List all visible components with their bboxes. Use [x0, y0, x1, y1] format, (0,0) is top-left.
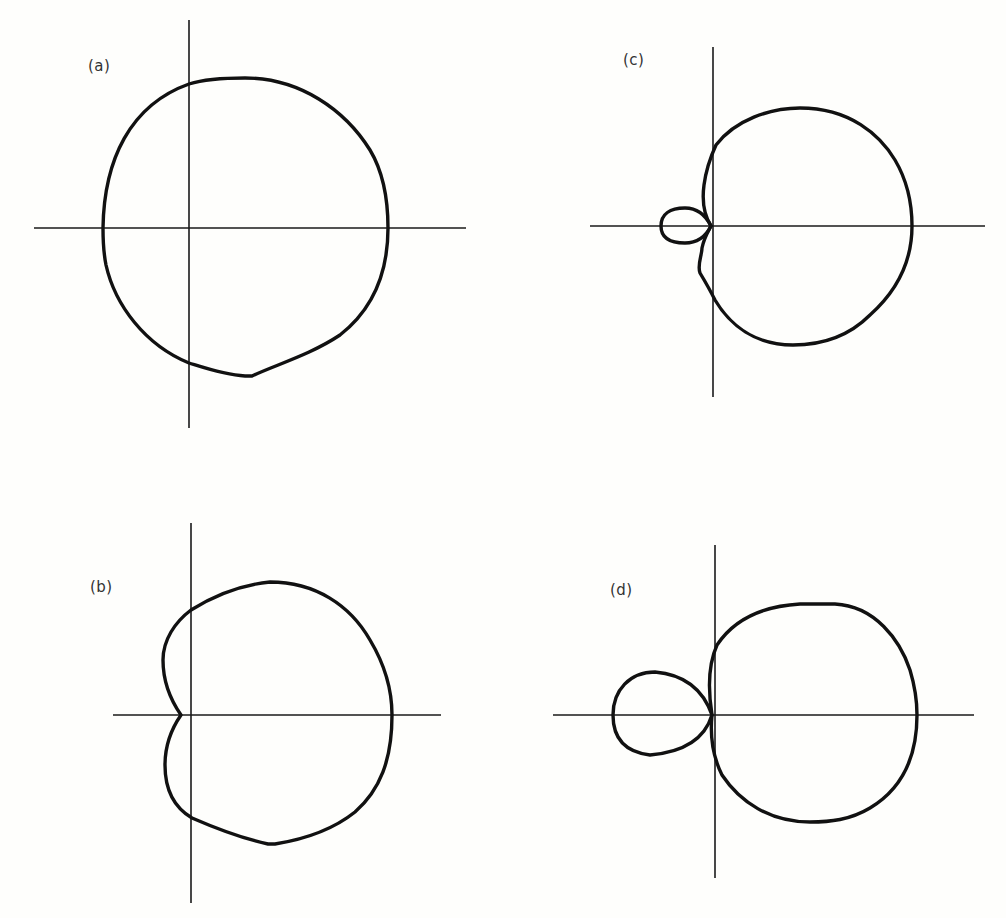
polar-plots-figure — [0, 0, 1006, 918]
panel-c-label: (c) — [623, 51, 644, 69]
panel-d-label: (d) — [610, 581, 633, 599]
panel-d-small-loop — [613, 672, 712, 755]
panel-b — [113, 523, 441, 903]
panel-d-main-lobe — [709, 604, 917, 822]
panel-b-label: (b) — [90, 578, 113, 596]
panel-c — [590, 47, 985, 397]
panel-a — [34, 20, 466, 428]
panel-b-curve — [163, 582, 392, 844]
panel-a-curve — [103, 78, 388, 376]
panel-a-label: (a) — [88, 57, 110, 75]
